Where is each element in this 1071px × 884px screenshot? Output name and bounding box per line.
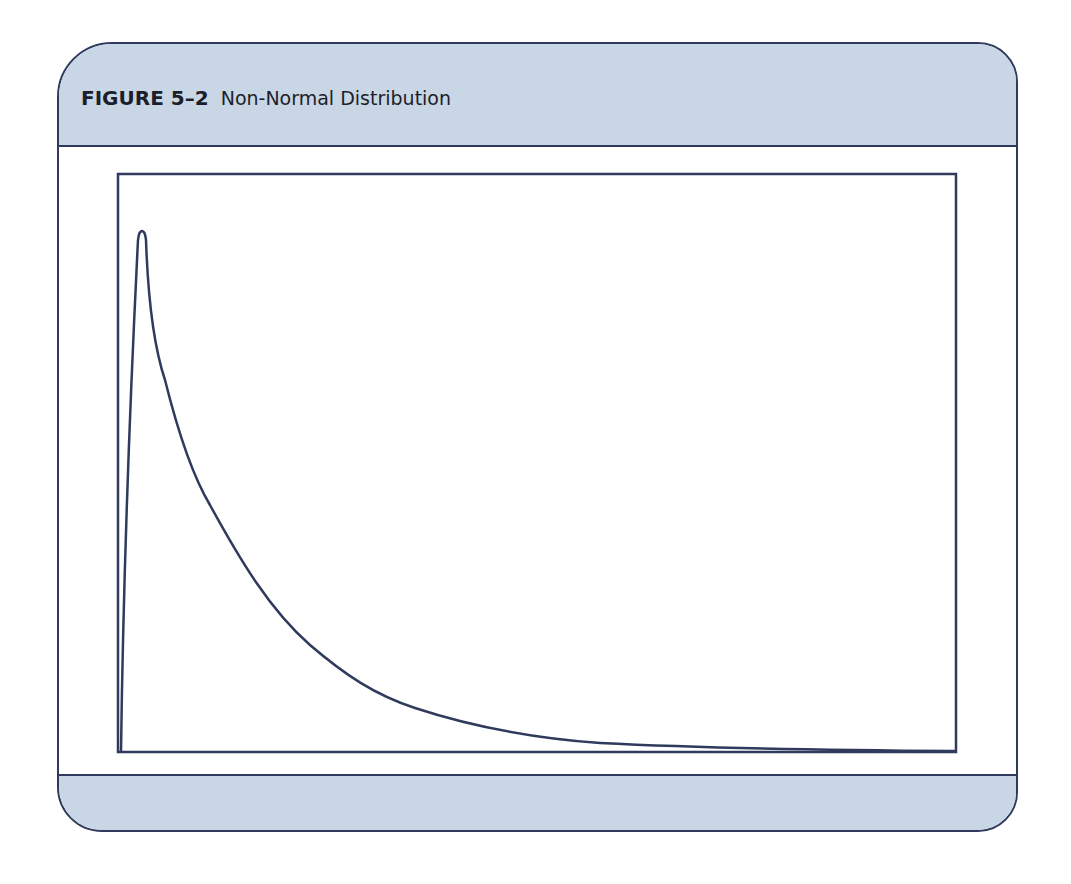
chart-plot-area: [0, 0, 1071, 884]
distribution-curve: [121, 231, 955, 752]
plot-border: [118, 174, 956, 752]
